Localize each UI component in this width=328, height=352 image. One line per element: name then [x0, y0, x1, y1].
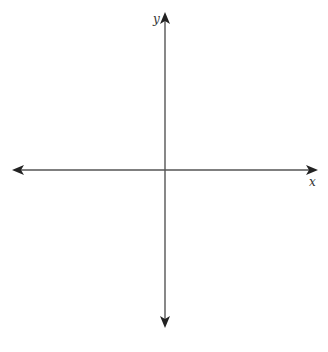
y-axis-label: y: [152, 12, 160, 26]
coordinate-plane: y x: [0, 0, 328, 352]
x-axis-label: x: [309, 175, 316, 189]
